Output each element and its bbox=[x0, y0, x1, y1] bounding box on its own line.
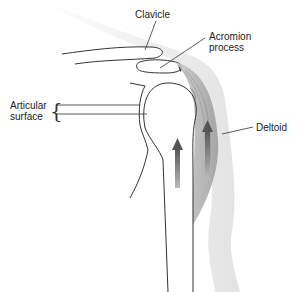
acromion-process bbox=[137, 60, 182, 73]
label-articular-surface: Articular surface bbox=[10, 100, 47, 122]
label-deltoid: Deltoid bbox=[256, 122, 287, 133]
label-acromion-line2: process bbox=[209, 42, 251, 53]
shoulder-anatomy-diagram bbox=[0, 0, 303, 292]
label-clavicle: Clavicle bbox=[135, 9, 170, 20]
humerus-arrow-icon bbox=[172, 138, 183, 188]
label-articular-line2: surface bbox=[10, 111, 47, 122]
brace-icon: { bbox=[50, 100, 63, 122]
label-acromion-line1: Acromion bbox=[209, 31, 251, 42]
label-acromion-process: Acromion process bbox=[209, 31, 251, 53]
humerus-bone bbox=[144, 83, 197, 292]
label-articular-line1: Articular bbox=[10, 100, 47, 111]
